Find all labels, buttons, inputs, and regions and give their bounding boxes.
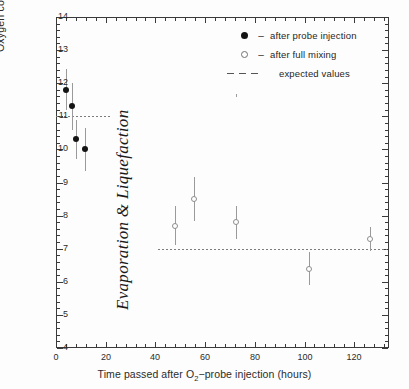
- x-minor-tick: [364, 344, 365, 347]
- x-minor-tick: [324, 344, 325, 347]
- legend-separator-1: –: [252, 49, 270, 60]
- legend-label-after-full-mixing: after full mixing: [270, 49, 336, 60]
- legend-item-after-full-mixing: – after full mixing: [236, 45, 404, 64]
- y-minor-tick: [385, 322, 388, 323]
- x-minor-tick: [116, 18, 117, 21]
- x-minor-tick: [145, 18, 146, 21]
- y-minor-tick: [385, 262, 388, 263]
- y-tick-label-10: 10: [46, 144, 68, 153]
- y-minor-tick: [57, 255, 60, 256]
- x-minor-tick: [136, 18, 137, 21]
- y-minor-tick: [57, 229, 60, 230]
- y-tick-12: [382, 83, 388, 84]
- x-minor-tick: [344, 18, 345, 21]
- x-minor-tick: [285, 344, 286, 347]
- y-minor-tick: [57, 189, 60, 190]
- data-point: [191, 196, 197, 202]
- x-axis-line: [56, 347, 389, 348]
- x-minor-tick: [344, 344, 345, 347]
- legend-label-after-probe-injection: after probe injection: [270, 30, 357, 41]
- x-minor-tick: [145, 344, 146, 347]
- x-minor-tick: [285, 18, 286, 21]
- x-tick-label-40: 40: [142, 353, 168, 362]
- y-minor-tick: [57, 96, 60, 97]
- y-minor-tick: [385, 96, 388, 97]
- x-axis-title-prefix: Time passed after O: [98, 368, 195, 380]
- x-tick-label-80: 80: [242, 353, 268, 362]
- y-minor-tick: [385, 335, 388, 336]
- y-minor-tick: [385, 24, 388, 25]
- oxygen-concentration-chart: Oxygen concentration (ppm) Time passed a…: [0, 0, 409, 389]
- x-tick-100: [305, 342, 306, 347]
- y-minor-tick: [57, 269, 60, 270]
- y-minor-tick: [57, 30, 60, 31]
- expected-value-line-7: [158, 249, 387, 250]
- y-minor-tick: [57, 130, 60, 131]
- x-minor-tick: [96, 344, 97, 347]
- x-axis-title-suffix: −probe injection (hours): [198, 368, 311, 380]
- y-tick-8: [382, 216, 388, 217]
- y-minor-tick: [57, 295, 60, 296]
- x-tick-40: [155, 18, 156, 23]
- y-tick-4: [382, 348, 388, 349]
- y-tick-label-11: 11: [46, 111, 68, 120]
- y-tick-label-9: 9: [46, 178, 68, 187]
- x-tick-label-20: 20: [93, 353, 119, 362]
- x-tick-20: [106, 342, 107, 347]
- x-minor-tick: [235, 18, 236, 21]
- y-tick-14: [382, 17, 388, 18]
- data-point: [172, 223, 178, 229]
- x-minor-tick: [175, 18, 176, 21]
- x-minor-tick: [215, 344, 216, 347]
- x-minor-tick: [126, 18, 127, 21]
- x-minor-tick: [175, 344, 176, 347]
- y-minor-tick: [385, 176, 388, 177]
- y-axis-title: Oxygen concentration (ppm): [0, 0, 6, 52]
- y-minor-tick: [385, 308, 388, 309]
- y-minor-tick: [385, 222, 388, 223]
- y-minor-tick: [385, 123, 388, 124]
- x-tick-40: [155, 342, 156, 347]
- y-tick-9: [382, 183, 388, 184]
- y-minor-tick: [385, 103, 388, 104]
- y-minor-tick: [57, 275, 60, 276]
- y-minor-tick: [57, 328, 60, 329]
- y-minor-tick: [385, 328, 388, 329]
- y-tick-label-4: 4: [46, 343, 68, 352]
- x-tick-80: [255, 342, 256, 347]
- x-tick-60: [205, 18, 206, 23]
- y-minor-tick: [57, 169, 60, 170]
- y-minor-tick: [57, 37, 60, 38]
- x-minor-tick: [245, 344, 246, 347]
- y-minor-tick: [57, 57, 60, 58]
- x-minor-tick: [265, 18, 266, 21]
- y-minor-tick: [385, 341, 388, 342]
- y-minor-tick: [57, 156, 60, 157]
- phase-annotation-label: Evaporation & Liquefaction: [113, 110, 133, 310]
- y-minor-tick: [385, 235, 388, 236]
- x-minor-tick: [314, 18, 315, 21]
- y-minor-tick: [57, 322, 60, 323]
- y-minor-tick: [385, 110, 388, 111]
- y-minor-tick: [385, 209, 388, 210]
- data-point: [306, 266, 312, 272]
- x-tick-100: [305, 18, 306, 23]
- y-minor-tick: [385, 169, 388, 170]
- y-tick-label-12: 12: [46, 78, 68, 87]
- x-minor-tick: [364, 18, 365, 21]
- x-minor-tick: [295, 18, 296, 21]
- y-tick-label-5: 5: [46, 310, 68, 319]
- y-minor-tick: [385, 202, 388, 203]
- y-minor-tick: [57, 196, 60, 197]
- x-tick-120: [354, 18, 355, 23]
- y-minor-tick: [385, 229, 388, 230]
- y-minor-tick: [385, 163, 388, 164]
- data-point: [69, 103, 75, 109]
- x-tick-label-120: 120: [341, 353, 367, 362]
- x-minor-tick: [185, 344, 186, 347]
- x-minor-tick: [76, 344, 77, 347]
- y-minor-tick: [385, 130, 388, 131]
- x-minor-tick: [116, 344, 117, 347]
- y-minor-tick: [57, 262, 60, 263]
- legend-separator-0: –: [252, 30, 270, 41]
